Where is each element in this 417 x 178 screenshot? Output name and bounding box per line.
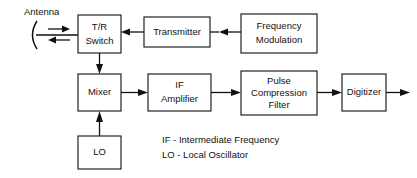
block-transmitter-label: Transmitter (153, 26, 201, 37)
connector-digitizer-to-output (386, 89, 410, 96)
legend-item-lo: LO - Local Oscillator (162, 149, 248, 160)
block-if-amplifier-label-line1: IF (175, 79, 184, 90)
connector-tr-switch-to-mixer (96, 53, 103, 74)
radar-block-diagram-canvas: Antenna T/R Switch Transmitter Frequenc (0, 0, 417, 178)
receive-arrow-icon (48, 37, 70, 44)
block-tr-switch-label-line1: T/R (92, 21, 107, 32)
connector-transmitter-to-tr-switch (121, 29, 144, 36)
block-pulse-compression-filter-label-line3: Filter (268, 99, 289, 110)
connector-fm-to-transmitter (210, 29, 241, 36)
block-pulse-compression-filter-label-line1: Pulse (267, 75, 291, 86)
block-digitizer-label: Digitizer (347, 86, 381, 97)
block-frequency-modulation-label-line2: Modulation (256, 34, 302, 45)
antenna-label: Antenna (24, 6, 60, 17)
radar-block-diagram: Antenna T/R Switch Transmitter Frequenc (0, 0, 417, 178)
connector-mixer-to-if-amplifier (121, 89, 148, 96)
block-frequency-modulation-label-line1: Frequency (257, 20, 302, 31)
legend-item-if: IF - Intermediate Frequency (162, 134, 279, 145)
block-mixer-label: Mixer (88, 86, 111, 97)
connector-if-amplifier-to-pulse-compression-filter (211, 89, 241, 96)
block-tr-switch-label-line2: Switch (86, 35, 114, 46)
connector-pulse-compression-filter-to-digitizer (317, 89, 342, 96)
transmit-arrow-icon (48, 26, 70, 33)
block-if-amplifier-label-line2: Amplifier (161, 93, 198, 104)
connector-lo-to-mixer (96, 111, 103, 136)
block-lo-label: LO (93, 146, 106, 157)
block-pulse-compression-filter-label-line2: Compression (251, 87, 307, 98)
